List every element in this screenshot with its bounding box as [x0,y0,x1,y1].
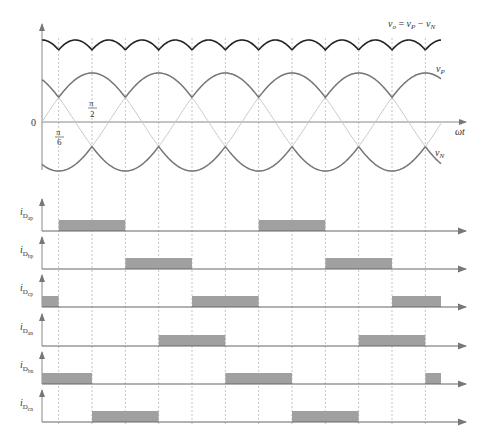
current-label-i-dan: iDan [20,321,33,336]
vo-equation-label: vo = vP − vN [388,18,435,31]
current-label-i-dbn: iDbn [20,359,34,374]
current-row-i-dan: iDan [20,314,466,346]
pi-over-2-label: π 2 [88,98,97,119]
conduction-pulse [159,335,226,346]
svg-text:2: 2 [90,109,95,119]
conduction-pulse [359,335,426,346]
current-row-i-dap: iDap [20,199,466,231]
conduction-pulse [225,373,292,384]
vn-label: vN [435,147,444,160]
current-label-i-dcn: iDcn [20,397,33,412]
svg-text:π: π [56,127,61,137]
omega-t-label: ωt [455,126,465,137]
vo-ripple-curve [42,40,441,50]
conduction-pulse [425,373,441,384]
rectifier-waveform-diagram: vo = vP − vN vP vN ωt 0 π 6 π 2 iDapiDbp… [0,0,488,442]
diode-current-rows: iDapiDbpiDcpiDaniDbniDcn [20,199,466,422]
current-row-i-dcn: iDcn [20,390,466,422]
conduction-pulse [259,220,326,231]
conduction-pulse [42,373,92,384]
current-row-i-dbn: iDbn [20,352,466,384]
conduction-pulse [392,296,441,307]
vp-label: vP [436,63,445,76]
conduction-pulse [92,411,159,422]
conduction-pulse [59,220,126,231]
conduction-pulse [42,296,59,307]
pi-over-6-label: π 6 [55,127,64,147]
current-row-i-dbp: iDbp [20,237,466,269]
svg-text:6: 6 [57,137,62,147]
conduction-pulse [192,296,259,307]
current-label-i-dap: iDap [20,206,33,221]
conduction-pulse [325,258,392,269]
conduction-pulse [125,258,192,269]
svg-text:π: π [89,98,94,108]
current-label-i-dcp: iDcp [20,282,33,297]
conduction-pulse [292,411,359,422]
current-row-i-dcp: iDcp [20,275,466,307]
current-label-i-dbp: iDbp [20,244,34,259]
origin-zero-label: 0 [31,117,36,128]
